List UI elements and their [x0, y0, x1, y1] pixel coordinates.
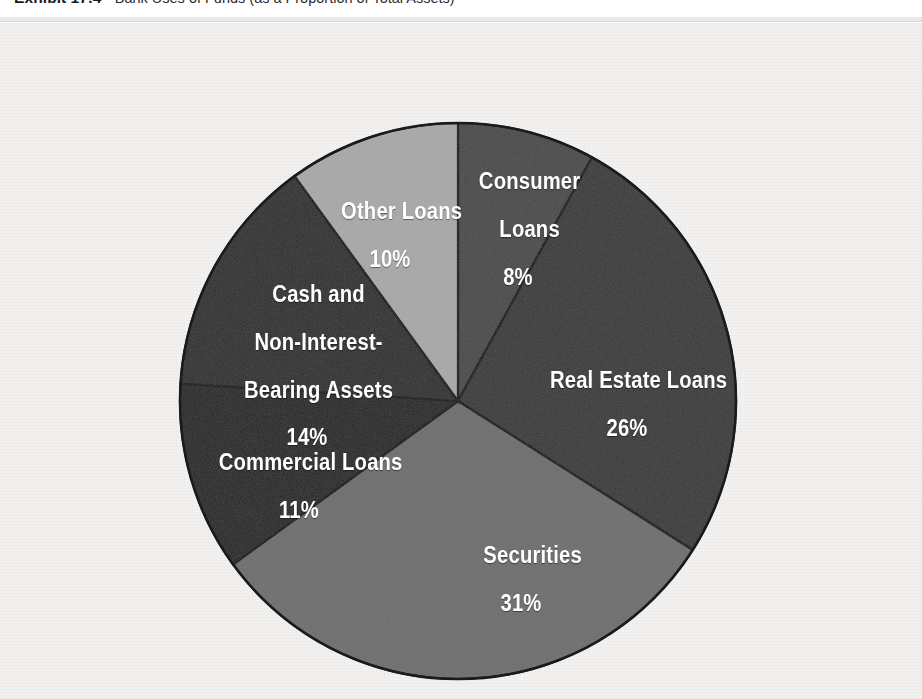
exhibit-number: 17.4 [70, 0, 101, 6]
exhibit-label: Exhibit [14, 0, 66, 6]
pie-chart [0, 23, 922, 699]
exhibit-caption: Bank Uses of Funds (as a Proportion of T… [115, 0, 455, 6]
figure-plate: Consumer Loans 8% Real Estate Loans 26% … [0, 23, 922, 699]
exhibit-header: Exhibit17.4Bank Uses of Funds (as a Prop… [0, 0, 922, 22]
exhibit-header-text: Exhibit17.4Bank Uses of Funds (as a Prop… [14, 0, 455, 7]
header-divider-secondary [0, 21, 922, 22]
pie-slice-group [180, 123, 736, 679]
